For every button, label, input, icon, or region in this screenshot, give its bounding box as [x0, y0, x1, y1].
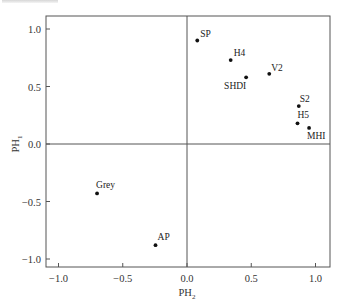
data-point: Grey [95, 180, 115, 195]
point-label: SP [200, 29, 211, 39]
point-marker [229, 58, 233, 62]
data-point: H4 [229, 48, 246, 62]
point-marker [195, 39, 199, 43]
point-label: AP [158, 232, 170, 242]
point-label: S2 [300, 94, 310, 104]
data-point: V2 [267, 63, 283, 76]
y-tick-label: 1.0 [28, 24, 41, 35]
x-axis-ticks: −1.0−0.50.00.51.0 [49, 263, 322, 284]
point-label: V2 [271, 63, 283, 73]
data-point: S2 [297, 94, 310, 108]
point-marker [244, 75, 248, 79]
point-label: Grey [96, 180, 115, 190]
plot-frame [46, 16, 330, 267]
point-label: H5 [298, 110, 310, 120]
x-tick-label: −0.5 [113, 273, 132, 284]
y-tick-label: 0.5 [28, 82, 41, 93]
data-points: SPH4SHDIV2S2H5MHIGreyAP [95, 29, 325, 248]
point-label: H4 [234, 48, 246, 58]
data-point: SHDI [224, 75, 248, 91]
point-marker [296, 121, 300, 125]
data-point: H5 [296, 110, 310, 125]
point-marker [297, 104, 301, 108]
y-tick-label: −0.5 [22, 197, 41, 208]
point-marker [95, 192, 99, 196]
y-tick-label: 0.0 [28, 139, 41, 150]
point-label: SHDI [224, 81, 246, 91]
x-tick-label: 1.0 [309, 273, 322, 284]
point-marker [307, 126, 311, 130]
point-label: MHI [307, 131, 325, 141]
point-marker [154, 243, 158, 247]
data-point: SP [195, 29, 210, 43]
x-tick-label: 0.0 [180, 273, 193, 284]
scatter-chart: −1.0−0.50.00.51.0 1.00.50.0−0.5−1.0 SPH4… [0, 0, 340, 306]
data-point: MHI [307, 126, 325, 141]
x-tick-label: −1.0 [49, 273, 68, 284]
y-axis-title: PH1 [10, 135, 24, 152]
y-tick-label: −1.0 [22, 254, 41, 265]
x-tick-label: 0.5 [245, 273, 258, 284]
x-axis-title: PH2 [179, 287, 196, 301]
data-point: AP [154, 232, 170, 247]
